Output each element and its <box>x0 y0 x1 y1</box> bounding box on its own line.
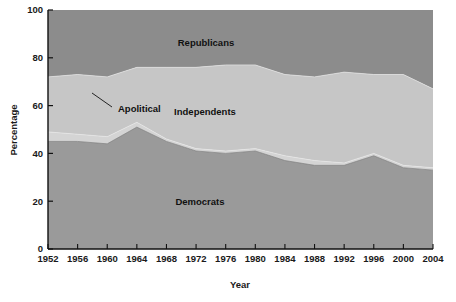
x-tick-label: 2004 <box>422 253 444 264</box>
y-tick-label: 60 <box>32 100 43 111</box>
series-label-democrats: Democrats <box>175 196 224 207</box>
series-label-apolitical: Apolitical <box>118 103 161 114</box>
x-tick-label: 2000 <box>393 253 414 264</box>
y-tick-label: 20 <box>32 196 43 207</box>
x-tick-label: 1968 <box>156 253 177 264</box>
x-tick-label: 1992 <box>334 253 355 264</box>
series-label-independents: Independents <box>174 106 236 117</box>
party-identification-area-chart: 020406080100 195219561960196419681972197… <box>0 0 456 302</box>
x-tick-label: 1984 <box>274 253 296 264</box>
x-tick-label: 1960 <box>97 253 118 264</box>
x-axis-title: Year <box>230 279 250 290</box>
x-tick-label: 1976 <box>215 253 236 264</box>
y-axis-title: Percentage <box>8 104 19 155</box>
series-label-republicans: Republicans <box>178 37 235 48</box>
x-tick-label: 1956 <box>67 253 88 264</box>
x-tick-label: 1996 <box>363 253 384 264</box>
chart-figure: 020406080100 195219561960196419681972197… <box>0 0 456 302</box>
x-tick-label: 1988 <box>304 253 325 264</box>
y-tick-label: 40 <box>32 148 43 159</box>
x-tick-label: 1980 <box>245 253 266 264</box>
stacked-areas-group <box>48 10 433 249</box>
y-tick-label: 100 <box>27 4 43 15</box>
x-tick-label: 1952 <box>37 253 58 264</box>
y-tick-label: 80 <box>32 52 43 63</box>
x-tick-label: 1972 <box>186 253 207 264</box>
x-tick-label: 1964 <box>126 253 148 264</box>
